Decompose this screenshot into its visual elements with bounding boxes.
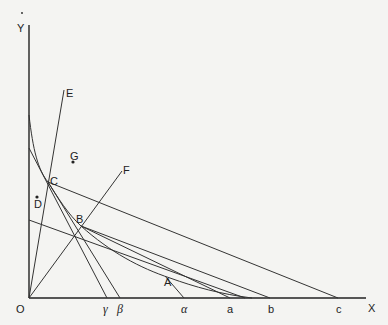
label-c: C xyxy=(50,175,58,187)
x-mark-gamma: γ xyxy=(103,302,108,316)
y-axis-label: Y xyxy=(17,22,25,34)
origin-label: O xyxy=(16,303,25,315)
line-y-a xyxy=(29,220,245,298)
x-mark-b: b xyxy=(268,303,274,315)
label-e: E xyxy=(66,87,73,99)
line-b-a xyxy=(81,226,230,298)
label-a: A xyxy=(164,276,172,288)
x-mark-beta: β xyxy=(116,302,123,316)
ray-oe xyxy=(29,90,64,298)
line-b-b xyxy=(81,226,270,298)
indifference-curve xyxy=(29,115,252,298)
label-b: B xyxy=(76,213,83,225)
stray-dot xyxy=(21,12,23,14)
x-mark-alpha: α xyxy=(181,302,188,316)
diagram: Y X O E F G C D B A γ β α a b c xyxy=(0,0,388,325)
x-axis-label: X xyxy=(368,302,376,314)
label-g: G xyxy=(70,150,79,162)
x-mark-a: a xyxy=(227,303,234,315)
label-d: D xyxy=(34,198,42,210)
label-f: F xyxy=(123,164,130,176)
line-c-gamma xyxy=(29,148,107,298)
x-mark-c: c xyxy=(336,303,342,315)
